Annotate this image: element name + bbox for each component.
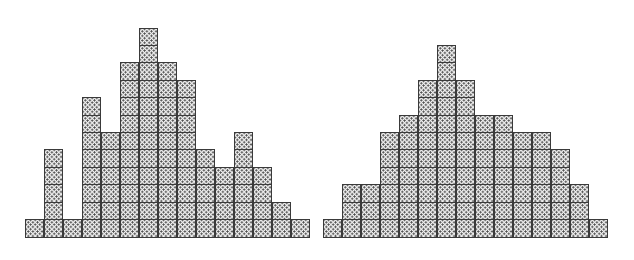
- histogram-block: [120, 62, 139, 81]
- histogram-block: [177, 115, 196, 134]
- histogram-block: [456, 167, 475, 186]
- histogram-block: [158, 80, 177, 99]
- histogram-block: [494, 149, 513, 168]
- histogram-column: [160, 64, 179, 238]
- histogram-block: [139, 62, 158, 81]
- histogram-block: [494, 202, 513, 221]
- histogram-block: [253, 167, 272, 186]
- histogram-column: [458, 81, 477, 238]
- histogram-block: [196, 202, 215, 221]
- histogram-column: [217, 168, 236, 238]
- histogram-block: [513, 132, 532, 151]
- histogram-block: [120, 219, 139, 238]
- histogram-block: [25, 219, 44, 238]
- histogram-block: [399, 149, 418, 168]
- histogram-block: [437, 115, 456, 134]
- left-block-histogram: [27, 29, 312, 238]
- histogram-column: [534, 134, 553, 238]
- histogram-block: [101, 132, 120, 151]
- histogram-block: [120, 149, 139, 168]
- histogram-column: [255, 168, 274, 238]
- histogram-block: [158, 219, 177, 238]
- histogram-block: [101, 167, 120, 186]
- histogram-block: [437, 149, 456, 168]
- histogram-block: [570, 202, 589, 221]
- histogram-block: [234, 184, 253, 203]
- histogram-column: [363, 186, 382, 238]
- histogram-block: [437, 167, 456, 186]
- histogram-block: [234, 219, 253, 238]
- histogram-block: [513, 202, 532, 221]
- histogram-block: [139, 97, 158, 116]
- histogram-block: [120, 132, 139, 151]
- histogram-block: [342, 202, 361, 221]
- histogram-block: [513, 149, 532, 168]
- histogram-block: [513, 219, 532, 238]
- histogram-block: [437, 219, 456, 238]
- histogram-block: [342, 184, 361, 203]
- histogram-column: [496, 116, 515, 238]
- histogram-column: [141, 29, 160, 238]
- histogram-block: [513, 184, 532, 203]
- histogram-block: [82, 167, 101, 186]
- histogram-block: [589, 219, 608, 238]
- histogram-block: [44, 202, 63, 221]
- histogram-block: [158, 62, 177, 81]
- histogram-block: [63, 219, 82, 238]
- histogram-block: [253, 184, 272, 203]
- histogram-column: [401, 116, 420, 238]
- histogram-block: [139, 80, 158, 99]
- histogram-column: [65, 221, 84, 238]
- histogram-block: [82, 184, 101, 203]
- histogram-block: [532, 167, 551, 186]
- histogram-block: [253, 219, 272, 238]
- histogram-block: [139, 45, 158, 64]
- histogram-block: [139, 132, 158, 151]
- histogram-column: [198, 151, 217, 238]
- histogram-block: [120, 167, 139, 186]
- histogram-column: [103, 134, 122, 238]
- histogram-column: [439, 47, 458, 238]
- two-histograms-figure: [0, 0, 634, 260]
- histogram-column: [591, 221, 610, 238]
- histogram-block: [418, 219, 437, 238]
- histogram-block: [418, 132, 437, 151]
- histogram-block: [494, 132, 513, 151]
- histogram-block: [139, 149, 158, 168]
- histogram-block: [361, 184, 380, 203]
- histogram-block: [196, 167, 215, 186]
- histogram-block: [234, 167, 253, 186]
- histogram-block: [158, 184, 177, 203]
- histogram-block: [532, 202, 551, 221]
- histogram-block: [101, 202, 120, 221]
- histogram-column: [572, 186, 591, 238]
- histogram-block: [399, 167, 418, 186]
- histogram-column: [515, 134, 534, 238]
- histogram-block: [570, 219, 589, 238]
- histogram-column: [553, 151, 572, 238]
- histogram-block: [437, 184, 456, 203]
- histogram-block: [139, 202, 158, 221]
- histogram-block: [532, 184, 551, 203]
- histogram-block: [399, 184, 418, 203]
- histogram-column: [477, 116, 496, 238]
- histogram-block: [342, 219, 361, 238]
- histogram-block: [437, 132, 456, 151]
- histogram-column: [27, 221, 46, 238]
- histogram-block: [272, 202, 291, 221]
- histogram-block: [215, 219, 234, 238]
- histogram-block: [215, 202, 234, 221]
- histogram-block: [551, 149, 570, 168]
- histogram-column: [293, 221, 312, 238]
- histogram-block: [437, 80, 456, 99]
- histogram-block: [418, 202, 437, 221]
- histogram-block: [380, 167, 399, 186]
- histogram-block: [253, 202, 272, 221]
- histogram-block: [177, 80, 196, 99]
- histogram-block: [101, 184, 120, 203]
- histogram-block: [399, 132, 418, 151]
- histogram-block: [380, 132, 399, 151]
- histogram-block: [196, 219, 215, 238]
- histogram-block: [380, 149, 399, 168]
- histogram-block: [494, 219, 513, 238]
